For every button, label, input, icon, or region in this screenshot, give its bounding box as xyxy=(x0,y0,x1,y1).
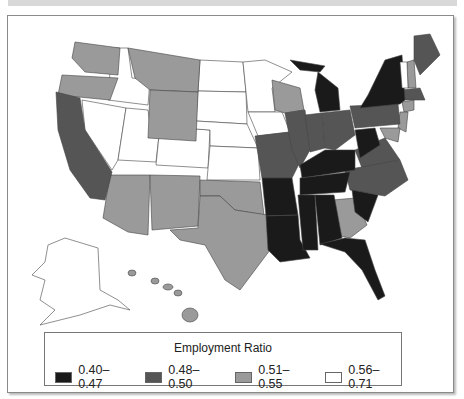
state-wisconsin xyxy=(272,80,304,113)
legend-label: 0.40–0.47 xyxy=(78,363,131,391)
state-maine xyxy=(414,34,440,75)
legend-label: 0.48–0.50 xyxy=(168,363,221,391)
legend-swatch xyxy=(325,372,342,383)
state-kansas xyxy=(207,146,260,180)
legend-swatch xyxy=(55,372,72,383)
state-wyoming xyxy=(148,90,198,141)
legend-item: 0.40–0.47 xyxy=(55,363,131,391)
state-iowa xyxy=(248,112,290,136)
legend-title: Employment Ratio xyxy=(45,341,401,355)
state-alaska xyxy=(32,238,130,325)
legend-item: 0.51–0.55 xyxy=(235,363,311,391)
state-south-dakota xyxy=(196,91,247,124)
state-new-mexico xyxy=(150,175,200,230)
state-hawaii xyxy=(128,270,198,322)
state-new-hampshire xyxy=(407,60,416,88)
legend-item: 0.56–0.71 xyxy=(325,363,401,391)
state-north-dakota xyxy=(198,60,246,92)
state-pennsylvania xyxy=(350,104,400,128)
map-legend: Employment Ratio 0.40–0.47 0.48–0.50 0.5… xyxy=(44,332,402,386)
state-florida xyxy=(320,238,385,300)
state-washington xyxy=(72,42,120,75)
state-connecticut xyxy=(402,100,414,112)
state-massachusetts xyxy=(402,88,425,100)
legend-swatch xyxy=(235,372,252,383)
state-arkansas xyxy=(262,178,298,216)
state-arizona xyxy=(103,175,150,235)
legend-items: 0.40–0.47 0.48–0.50 0.51–0.55 0.56–0.71 xyxy=(55,363,401,391)
state-ohio xyxy=(322,110,355,150)
legend-swatch xyxy=(145,372,162,383)
legend-label: 0.51–0.55 xyxy=(258,363,311,391)
legend-label: 0.56–0.71 xyxy=(348,363,401,391)
legend-item: 0.48–0.50 xyxy=(145,363,221,391)
state-new-york xyxy=(360,55,405,108)
